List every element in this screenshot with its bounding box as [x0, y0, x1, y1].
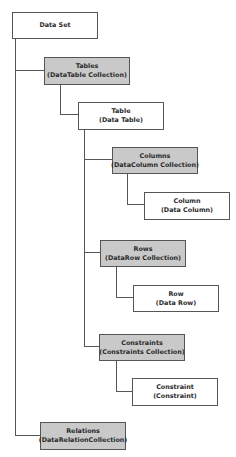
node-subtitle: (DataTable Collection) [47, 71, 127, 80]
node-constraints: Constraints (Constraints Collection) [99, 334, 185, 361]
node-title: Rows [133, 245, 152, 254]
node-dataset: Data Set [12, 12, 98, 39]
node-tables: Tables (DataTable Collection) [44, 57, 130, 85]
node-title: Constraint [156, 383, 194, 392]
connector-columns-column [127, 204, 144, 205]
node-subtitle: (Data Row) [156, 299, 196, 308]
connector-columns-trunk [127, 174, 128, 205]
node-subtitle: (DataRelationCollection) [39, 436, 128, 445]
node-subtitle: (Data Column) [161, 206, 213, 215]
node-title: Relations [66, 427, 100, 436]
node-title: Tables [76, 62, 99, 71]
node-subtitle: (Constraint) [153, 392, 197, 401]
node-row: Row (Data Row) [133, 285, 219, 312]
connector-table-rows [84, 252, 100, 253]
node-title: Constraints [121, 339, 163, 348]
node-constraint: Constraint (Constraint) [132, 378, 218, 406]
node-rows: Rows (DataRow Collection) [100, 240, 186, 267]
node-subtitle: (DataColumn Collection) [111, 161, 199, 170]
connector-table-constraints [84, 346, 99, 347]
connector-tables-trunk [60, 85, 61, 115]
node-title: Column [173, 197, 200, 206]
connector-table-trunk [84, 130, 85, 347]
node-title: Row [168, 290, 183, 299]
node-relations: Relations (DataRelationCollection) [40, 422, 126, 450]
node-table: Table (Data Table) [78, 102, 164, 130]
node-title: Table [112, 107, 131, 116]
connector-rows-trunk [116, 267, 117, 298]
connector-dataset-relations [15, 435, 40, 436]
connector-constraints-constraint [116, 391, 132, 392]
node-columns: Columns (DataColumn Collection) [112, 147, 198, 174]
node-subtitle: (Data Table) [99, 116, 143, 125]
connector-rows-row [116, 297, 133, 298]
connector-constraints-trunk [116, 361, 117, 392]
node-subtitle: (DataRow Collection) [105, 254, 181, 263]
node-title: Data Set [39, 21, 70, 30]
node-subtitle: (Constraints Collection) [99, 348, 184, 357]
node-column: Column (Data Column) [144, 192, 230, 220]
connector-tables-table [60, 114, 78, 115]
connector-dataset-trunk [15, 39, 16, 436]
connector-dataset-tables [15, 70, 44, 71]
node-title: Columns [140, 152, 171, 161]
connector-table-columns [84, 159, 112, 160]
